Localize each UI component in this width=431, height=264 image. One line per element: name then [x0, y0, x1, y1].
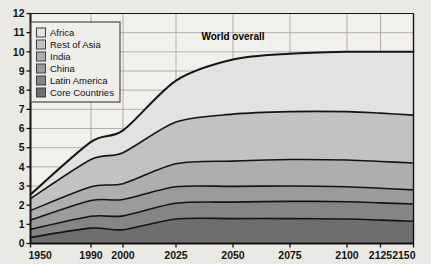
legend-swatch: [37, 40, 46, 49]
y-axis-tick-label: 3: [19, 180, 25, 192]
legend-swatch: [37, 76, 46, 85]
legend-label: Core Countries: [50, 87, 114, 98]
x-axis-tick-label: 1950: [29, 249, 53, 261]
y-axis-tick-label: 0: [19, 237, 25, 249]
x-axis-tick-label: 2025: [164, 249, 188, 261]
x-axis-tick-label: 2075: [278, 249, 302, 261]
legend-swatch: [37, 28, 46, 37]
legend: AfricaRest of AsiaIndiaChinaLatin Americ…: [31, 22, 120, 102]
x-axis-tick-label: 2125: [369, 249, 393, 261]
x-axis-tick-label: 2150: [392, 249, 416, 261]
y-axis-tick-label: 7: [19, 103, 25, 115]
y-axis-tick-label: 11: [13, 26, 24, 38]
y-axis-tick-label: 6: [19, 122, 25, 134]
legend-label: Africa: [50, 27, 75, 38]
legend-label: Rest of Asia: [50, 39, 101, 50]
x-axis-tick-label: 1990: [79, 249, 103, 261]
stacked-area-chart: 0123456789101112195019902000202520502075…: [0, 0, 431, 264]
y-axis-tick-label: 1: [19, 218, 25, 230]
annotation-world-overall: World overall: [201, 31, 264, 42]
x-axis-tick-label: 2100: [335, 249, 359, 261]
y-axis-tick-label: 2: [19, 199, 25, 211]
y-axis-tick-label: 4: [19, 161, 25, 173]
y-axis-tick-label: 9: [19, 65, 25, 77]
y-axis-tick-label: 10: [13, 46, 25, 58]
x-axis-tick-label: 2000: [111, 249, 135, 261]
legend-swatch: [37, 64, 46, 73]
y-axis-tick-label: 12: [13, 7, 25, 19]
legend-item[interactable]: Africa: [37, 27, 76, 38]
y-axis-tick-label: 8: [19, 84, 25, 96]
legend-label: Latin America: [50, 75, 108, 86]
y-axis-tick-label: 5: [19, 141, 25, 153]
chart-canvas: 0123456789101112195019902000202520502075…: [0, 0, 431, 264]
legend-swatch: [37, 52, 46, 61]
legend-item[interactable]: China: [37, 63, 76, 74]
x-axis-tick-label: 2050: [221, 249, 245, 261]
legend-item[interactable]: India: [37, 51, 72, 62]
legend-swatch: [37, 88, 46, 97]
legend-label: India: [50, 51, 71, 62]
legend-label: China: [50, 63, 76, 74]
